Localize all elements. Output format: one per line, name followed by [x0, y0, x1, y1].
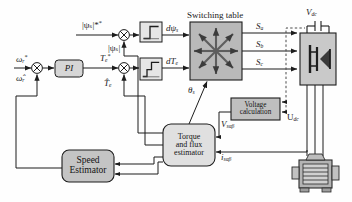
- torque-flux-estimator-label: Torque and flux estimator: [163, 124, 215, 166]
- voltage-calculation-label: Voltage calculation: [231, 98, 280, 120]
- label-torque-reference: Te*: [100, 53, 111, 63]
- wire-speed-est-to-sum: [16, 96, 62, 168]
- label-vdc: Vdc: [306, 8, 317, 18]
- label-torque-estimate: T̂e: [104, 79, 112, 89]
- label-vsab: Vsαβ: [221, 120, 234, 130]
- label-switch-c: Sc: [256, 58, 263, 68]
- estimator-line-3: estimator: [174, 149, 204, 157]
- wire-estimator-torque-out: [124, 96, 163, 145]
- diagram-canvas: |ψₛ|** |ψₛ| ωr* ω̂r Te* T̂e dψs dTe θs S…: [0, 0, 352, 202]
- label-isab: isαβ: [221, 153, 231, 163]
- voltage-vector-star: [194, 28, 238, 74]
- label-switching-table-title: Switching table: [187, 11, 243, 20]
- label-switch-b: Sb: [256, 40, 263, 50]
- label-d-flux: dψs: [166, 24, 178, 34]
- label-speed-estimate: ω̂r: [16, 74, 25, 84]
- label-udc: Udc: [287, 113, 299, 123]
- induction-motor-symbol: [292, 154, 339, 192]
- dc-link-capacitor: [307, 21, 329, 33]
- speed-estimator-line-2: Estimator: [70, 166, 107, 176]
- label-switch-a: Sa: [256, 22, 263, 32]
- pi-controller-label: PI: [55, 60, 83, 77]
- label-flux-reference: |ψₛ|**: [82, 20, 102, 30]
- speed-estimator-label: Speed Estimator: [62, 150, 114, 182]
- label-theta-s: θs: [188, 86, 195, 96]
- label-d-torque: dTe: [166, 57, 178, 67]
- label-speed-reference: ωr*: [16, 54, 28, 64]
- voltage-calc-line-2: calculation: [240, 109, 272, 116]
- wire-inverter-to-motor: [307, 85, 323, 156]
